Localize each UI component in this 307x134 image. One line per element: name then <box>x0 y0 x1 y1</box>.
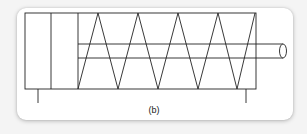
rod-end-icon <box>280 44 287 58</box>
figure-stage: (b) <box>0 0 307 134</box>
return-spring <box>78 13 255 89</box>
figure-caption: (b) <box>138 104 170 116</box>
cylinder-body <box>25 13 256 89</box>
